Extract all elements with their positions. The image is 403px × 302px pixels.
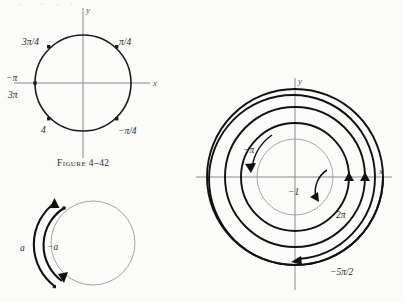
figure-spiral-winding: x y −π −1 2π −5π/2 — [0, 0, 403, 302]
arc-minus-1-arrowhead — [310, 192, 319, 202]
label-2pi-spiral: 2π — [336, 210, 346, 220]
arc-minus-pi-arrowhead — [245, 163, 256, 173]
y-axis-label-figure3: y — [297, 76, 302, 86]
label-minus-1-spiral: −1 — [288, 187, 299, 197]
scan-artifact — [56, 4, 59, 6]
label-minus-5pi-over-2-spiral: −5π/2 — [330, 267, 354, 277]
scan-artifact — [70, 3, 73, 5]
scan-artifact — [18, 4, 21, 6]
figure-page: x y 3π/4 π/4 −π 3π 4 −π/4 Figure 4–42 a … — [0, 0, 403, 302]
outer-spiral-tail — [209, 95, 383, 265]
scan-artifact — [41, 3, 44, 5]
spiral-minus-5pi-over-2-arrowhead — [291, 256, 302, 265]
label-minus-pi-spiral: −π — [243, 145, 254, 155]
